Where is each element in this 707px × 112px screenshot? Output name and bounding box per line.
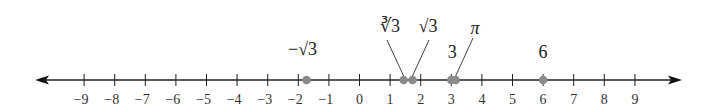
number-line: −9−8−7−6−5−4−3−2−10123456789 −√3∛3√33π6 xyxy=(0,0,707,112)
point-label: −√3 xyxy=(288,39,317,59)
tick-label: 4 xyxy=(478,92,485,107)
point-marker xyxy=(399,76,408,85)
leader-line xyxy=(412,40,429,76)
tick-label: 8 xyxy=(601,92,608,107)
tick-label: 5 xyxy=(509,92,516,107)
point-marker xyxy=(408,76,417,85)
point-marker xyxy=(539,76,548,85)
leader-line xyxy=(456,38,473,76)
tick-label: 1 xyxy=(387,92,394,107)
tick-label: 3 xyxy=(448,92,455,107)
point-marker xyxy=(302,76,311,85)
tick-label: −9 xyxy=(74,92,89,107)
point-label: √3 xyxy=(419,16,438,36)
tick-label: −5 xyxy=(196,92,211,107)
tick-label: −4 xyxy=(227,92,242,107)
tick-label: 7 xyxy=(570,92,577,107)
tick-label: −6 xyxy=(165,92,180,107)
point-label: π xyxy=(470,18,480,38)
point-label: ∛3 xyxy=(380,16,400,36)
point-marker xyxy=(451,76,460,85)
tick-label: 0 xyxy=(356,92,363,107)
tick-label: 6 xyxy=(540,92,547,107)
tick-label: −2 xyxy=(288,92,303,107)
point-label: 6 xyxy=(539,42,548,62)
point-label: 3 xyxy=(448,42,457,62)
tick-label: −7 xyxy=(135,92,150,107)
tick-label: −3 xyxy=(257,92,272,107)
tick-label: −8 xyxy=(104,92,119,107)
leader-line xyxy=(387,40,404,76)
tick-label: −1 xyxy=(318,92,333,107)
tick-label: 2 xyxy=(417,92,424,107)
tick-label: 9 xyxy=(631,92,638,107)
